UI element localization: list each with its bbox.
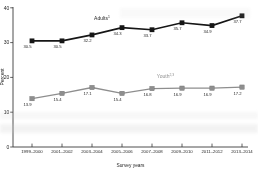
y-tick-label: 40 — [4, 5, 10, 11]
youth-marker — [30, 96, 34, 100]
youth-marker — [120, 91, 124, 95]
youth-value-label: 17.2 — [233, 91, 242, 96]
adults-value-label: 37.7 — [233, 19, 242, 24]
adults-marker — [90, 33, 95, 38]
adults-value-label: 30.5 — [23, 44, 32, 49]
x-tick-label: 2009–2010 — [171, 149, 193, 154]
youth-value-label: 13.9 — [23, 102, 32, 107]
adults-marker — [180, 20, 185, 25]
youth-marker — [210, 86, 214, 90]
x-tick-label: 2007–2008 — [141, 149, 163, 154]
line-chart: 0102030401999–20002001–20022003–20042005… — [0, 0, 258, 176]
adults-marker — [30, 38, 35, 43]
youth-marker — [90, 85, 94, 89]
youth-marker — [60, 91, 64, 95]
adults-marker — [240, 13, 245, 18]
y-tick-label: 10 — [4, 109, 10, 115]
adults-marker — [120, 25, 125, 30]
x-tick-label: 2013–2014 — [231, 149, 253, 154]
adults-value-label: 34.9 — [203, 29, 212, 34]
adults-value-label: 35.7 — [173, 26, 182, 31]
adults-marker — [60, 38, 65, 43]
adults-value-label: 34.3 — [113, 31, 122, 36]
obesity-trends-figure: 0102030401999–20002001–20022003–20042005… — [0, 0, 258, 176]
y-tick-label: 0 — [6, 144, 9, 150]
adults-value-label: 33.7 — [143, 33, 152, 38]
x-axis-title: Survey years — [117, 163, 146, 168]
adults-series-label: Adults1 — [94, 15, 110, 21]
x-tick-label: 2011–2012 — [201, 149, 223, 154]
x-tick-label: 2001–2002 — [51, 149, 73, 154]
youth-marker — [150, 86, 154, 90]
youth-marker — [240, 85, 244, 89]
youth-value-label: 17.1 — [83, 91, 92, 96]
youth-value-label: 15.4 — [53, 97, 62, 102]
adults-marker — [210, 23, 215, 28]
youth-value-label: 16.9 — [203, 92, 212, 97]
x-tick-label: 1999–2000 — [21, 149, 43, 154]
x-tick-label: 2005–2006 — [111, 149, 133, 154]
youth-value-label: 16.8 — [143, 92, 152, 97]
youth-marker — [180, 86, 184, 90]
youth-series-label: Youth2,3 — [157, 73, 174, 79]
youth-value-label: 16.9 — [173, 92, 182, 97]
y-tick-label: 30 — [4, 39, 10, 45]
x-tick-label: 2003–2004 — [81, 149, 103, 154]
adults-marker — [150, 27, 155, 32]
adults-value-label: 30.5 — [53, 44, 62, 49]
adults-value-label: 32.2 — [83, 38, 92, 43]
youth-value-label: 15.4 — [113, 97, 122, 102]
y-axis-title: Percent — [0, 68, 5, 86]
